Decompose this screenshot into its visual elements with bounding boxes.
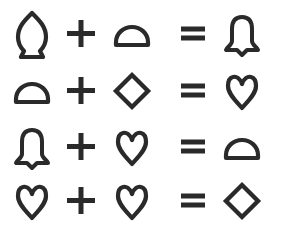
semicircle-icon: semicircle [220, 122, 264, 172]
equation-row-3: bell + heart = semicircle [0, 122, 283, 172]
bell-icon: bell [220, 9, 264, 59]
acorn-icon: acorn [10, 9, 54, 59]
plus-icon: + [60, 66, 102, 116]
symbol-puzzle: acorn + semicircle = bell semicircle + d… [0, 0, 283, 246]
semicircle-icon: semicircle [110, 9, 154, 59]
equals-icon: = [172, 176, 214, 226]
diamond-icon: diamond [110, 66, 154, 116]
plus-icon: + [60, 176, 102, 226]
heart-icon: heart [10, 176, 54, 226]
equals-icon: = [172, 122, 214, 172]
equation-row-1: acorn + semicircle = bell [0, 9, 283, 59]
plus-icon: + [60, 9, 102, 59]
plus-icon: + [60, 122, 102, 172]
equation-row-4: heart + heart = diamond [0, 176, 283, 226]
equation-row-2: semicircle + diamond = heart [0, 66, 283, 116]
diamond-icon: diamond [220, 176, 264, 226]
heart-icon: heart [220, 66, 264, 116]
heart-icon: heart [110, 122, 154, 172]
equals-icon: = [172, 9, 214, 59]
equals-icon: = [172, 66, 214, 116]
semicircle-icon: semicircle [10, 66, 54, 116]
bell-icon: bell [10, 122, 54, 172]
heart-icon: heart [110, 176, 154, 226]
